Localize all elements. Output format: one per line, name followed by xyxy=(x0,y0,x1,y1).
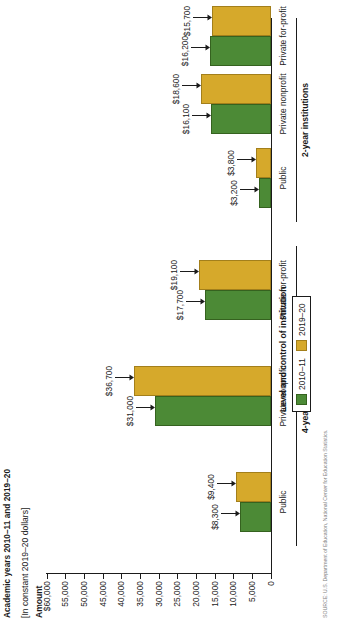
y-axis-tick xyxy=(47,574,48,579)
legend-swatch-icon-2019-20 xyxy=(296,340,307,351)
plot-area: $60,00055,00050,00045,00040,00035,00030,… xyxy=(46,18,272,574)
bar-2019-20 xyxy=(212,6,271,36)
value-arrow-icon xyxy=(192,113,211,120)
category-label: Public xyxy=(278,491,288,514)
y-axis-tick xyxy=(159,574,160,579)
value-arrow-icon xyxy=(237,157,256,164)
legend-label-2010-11: 2010–11 xyxy=(297,358,307,390)
y-axis-tick-label: 45,000 xyxy=(98,581,108,607)
legend-label-2019-20: 2019–20 xyxy=(297,303,307,336)
legend-item-2019-20: 2019–20 xyxy=(296,303,307,351)
figure-canvas: Academic years 2010–11 and 2019–20 [In c… xyxy=(0,0,344,624)
y-axis-tick-label: $60,000 xyxy=(42,581,52,611)
legend-title: Level and control of institution xyxy=(278,286,288,412)
value-arrow-icon xyxy=(186,299,205,306)
bar-value-label: $9,400 xyxy=(206,474,216,500)
bar-2010-11 xyxy=(211,104,271,134)
y-axis-tick-label: 5,000 xyxy=(247,581,257,602)
y-axis-tick xyxy=(103,574,104,579)
value-arrow-icon xyxy=(115,375,134,382)
y-axis-tick-label: 10,000 xyxy=(228,581,238,607)
y-axis-tick-label: 20,000 xyxy=(191,581,201,607)
bar-value-label: $15,700 xyxy=(182,6,192,36)
y-axis-tick-label: 50,000 xyxy=(79,581,89,607)
legend-box: 2010–11 2019–20 xyxy=(292,296,311,412)
y-axis-tick-label: 30,000 xyxy=(154,581,164,607)
bar-value-label: $36,700 xyxy=(104,366,114,396)
bar-value-label: $3,200 xyxy=(229,180,239,206)
y-axis-tick xyxy=(233,574,234,579)
y-axis-tick xyxy=(65,574,66,579)
bar-2010-11 xyxy=(240,502,271,532)
y-axis-tick xyxy=(252,574,253,579)
bar-2019-20 xyxy=(256,148,270,178)
y-axis-tick xyxy=(121,574,122,579)
y-axis-tick-label: 15,000 xyxy=(210,581,220,607)
value-arrow-icon xyxy=(182,83,201,90)
y-axis-tick-label: 25,000 xyxy=(172,581,182,607)
group-label: 2-year institutions xyxy=(300,83,310,157)
x-axis-line xyxy=(271,18,272,574)
y-axis-tick xyxy=(140,574,141,579)
y-axis-tick-label: 55,000 xyxy=(60,581,70,607)
value-arrow-icon xyxy=(191,45,210,52)
bar-value-label: $16,200 xyxy=(180,36,190,66)
category-label: Private nonprofit xyxy=(278,74,288,135)
chart-title: Academic years 2010–11 and 2019–20 xyxy=(2,469,12,618)
y-axis-tick-label: 40,000 xyxy=(116,581,126,607)
bar-2010-11 xyxy=(155,396,271,426)
y-axis-tick-label: 35,000 xyxy=(135,581,145,607)
category-label: Public xyxy=(278,167,288,190)
y-axis-tick xyxy=(177,574,178,579)
source-note: SOURCE: U.S. Department of Education, Na… xyxy=(322,429,328,618)
bar-value-label: $3,800 xyxy=(226,150,236,176)
bar-2010-11 xyxy=(210,36,271,66)
y-axis-tick xyxy=(215,574,216,579)
group-rule xyxy=(296,18,297,222)
bar-2019-20 xyxy=(236,472,271,502)
value-arrow-icon xyxy=(193,15,212,22)
bar-value-label: $16,100 xyxy=(181,104,191,134)
bar-value-label: $19,100 xyxy=(169,260,179,290)
chart-subtitle: [In constant 2019–20 dollars] xyxy=(20,508,30,618)
category-label: Private for-profit xyxy=(278,6,288,66)
bar-value-label: $17,700 xyxy=(175,290,185,320)
legend-item-2010-11: 2010–11 xyxy=(296,358,307,405)
title-block: Academic years 2010–11 and 2019–20 xyxy=(2,469,12,618)
value-arrow-icon xyxy=(180,269,199,276)
value-arrow-icon xyxy=(221,511,240,518)
legend-swatch-icon-2010-11 xyxy=(296,394,307,405)
bar-2019-20 xyxy=(201,74,270,104)
legend: Level and control of institution 2010–11… xyxy=(292,296,311,412)
y-axis-tick xyxy=(196,574,197,579)
bar-2019-20 xyxy=(199,260,270,290)
y-axis-tick-label: 0 xyxy=(266,581,276,586)
bar-value-label: $18,600 xyxy=(171,74,181,104)
y-axis-tick xyxy=(271,574,272,579)
value-arrow-icon xyxy=(217,481,236,488)
bar-2010-11 xyxy=(205,290,271,320)
bar-value-label: $31,000 xyxy=(125,396,135,426)
bar-2019-20 xyxy=(134,366,271,396)
value-arrow-icon xyxy=(240,187,259,194)
value-arrow-icon xyxy=(136,405,155,412)
bar-2010-11 xyxy=(259,178,271,208)
y-axis-tick xyxy=(84,574,85,579)
bar-value-label: $8,300 xyxy=(210,504,220,530)
